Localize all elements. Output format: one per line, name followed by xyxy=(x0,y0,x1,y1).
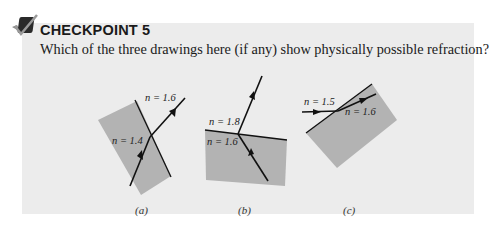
figure-a-n-inner: n = 1.4 xyxy=(112,135,143,146)
caption-a: (a) xyxy=(135,204,148,216)
figure-b-n-outer: n = 1.8 xyxy=(209,116,240,127)
figure-c-n-outer: n = 1.5 xyxy=(304,96,335,107)
caption-c: (c) xyxy=(343,204,355,216)
caption-b: (b) xyxy=(238,204,251,216)
figure-b xyxy=(205,76,287,186)
figure-b-n-inner: n = 1.6 xyxy=(207,136,238,147)
figure-a xyxy=(98,98,185,195)
figure-a-n-outer: n = 1.6 xyxy=(145,92,176,103)
figure-c-n-inner: n = 1.6 xyxy=(345,106,376,117)
refraction-figures xyxy=(0,0,497,236)
